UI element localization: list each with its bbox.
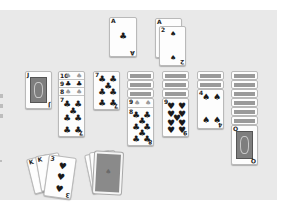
face-down-card [162, 89, 189, 98]
face-down-card [231, 107, 258, 116]
club-icon: ♣ [63, 126, 71, 135]
club-icon: ♣ [132, 135, 140, 144]
spade-icon: ♠ [76, 73, 82, 80]
foundation-pile-2[interactable]: 2 ♠ ♠ 2 [159, 26, 186, 66]
face-down-card [231, 89, 258, 98]
card-rank: 7 [114, 103, 118, 109]
face-down-card [162, 71, 189, 80]
club-icon: ♣ [74, 114, 82, 123]
club-icon: ♣ [119, 32, 127, 41]
card-rank: 8 [60, 89, 64, 95]
spade-icon: ♠ [170, 31, 176, 38]
card-rank: 3 [65, 192, 70, 199]
card-rank: Q [251, 158, 256, 164]
card-rank: 2 [180, 59, 184, 65]
spade-icon: ♠ [202, 116, 210, 125]
face-down-card [231, 116, 258, 125]
stock-pile[interactable]: ♠ [93, 151, 123, 194]
card-rank: J [48, 102, 50, 108]
face-down-card [197, 71, 224, 80]
spade-icon: ♠ [134, 100, 140, 107]
club-icon: ♣ [63, 114, 71, 123]
edge-marker [0, 104, 3, 108]
card-rank: K [37, 156, 43, 163]
card-rank: 9 [129, 99, 133, 105]
tableau-column-7-card[interactable]: Q Q [231, 125, 258, 165]
heart-icon: ♥ [58, 162, 67, 172]
card-rank: J [27, 72, 29, 78]
deck-emblem-icon: ♠ [105, 169, 112, 176]
card-rank: 9 [183, 130, 187, 136]
tableau-column-3-card[interactable]: 7 ♣ ♣ ♣ ♣ ♣ ♣ ♣ 7 [93, 71, 120, 110]
heart-icon: ♥ [55, 185, 64, 195]
club-icon: ♣ [76, 81, 82, 88]
spade-icon: ♠ [76, 89, 82, 96]
face-down-card [127, 71, 154, 80]
spade-icon: ♠ [65, 73, 71, 80]
heart-icon: ♥ [167, 126, 175, 135]
edge-marker [0, 160, 2, 162]
spade-icon: ♠ [65, 89, 71, 96]
edge-marker [0, 94, 3, 98]
card-rank: K [28, 159, 34, 166]
card-rank: 4 [218, 122, 222, 128]
face-down-card [162, 80, 189, 89]
card-rank: 7 [79, 130, 83, 136]
club-icon: ♣ [109, 88, 117, 97]
card-rank: A [111, 18, 116, 24]
club-icon: ♣ [98, 99, 106, 108]
tableau-column-6-card[interactable]: 4 ♠ ♠ ♠ ♠ 4 [197, 89, 224, 129]
tableau-column-4-card[interactable]: 9 ♠ ♠ 8 ♣ ♣ ♣ ♣ ♣ ♣ ♣ ♣ 8 [127, 98, 154, 146]
club-icon: ♣ [65, 81, 71, 88]
queen-face-art [236, 131, 253, 159]
heart-icon: ♥ [56, 173, 65, 183]
card-rank: A [130, 50, 135, 56]
face-down-card [127, 89, 154, 98]
face-down-card [231, 98, 258, 107]
face-down-card [231, 71, 258, 80]
spade-icon: ♠ [202, 93, 210, 102]
face-down-card [197, 80, 224, 89]
tableau-column-5-card[interactable]: 9 ♥ ♥ ♥ ♥ ♥ ♥ ♥ ♥ ♥ 9 [162, 98, 189, 137]
tableau-column-1-card[interactable]: J J [25, 71, 52, 109]
spade-icon: ♠ [145, 100, 151, 107]
jack-face-art [30, 77, 47, 103]
edge-marker [0, 114, 3, 118]
card-rank: A [157, 19, 162, 25]
spade-icon: ♠ [213, 93, 221, 102]
face-down-card [127, 80, 154, 89]
face-down-card [231, 80, 258, 89]
card-rank: 8 [148, 139, 152, 145]
waste-top-card[interactable]: 3 ♥ ♥ ♥ 3 [43, 154, 77, 199]
foundation-pile-1[interactable]: A ♣ A [109, 17, 137, 57]
card-rank: 9 [60, 81, 64, 87]
card-rank: 2 [161, 27, 165, 33]
club-icon: ♣ [98, 88, 106, 97]
spade-icon: ♠ [170, 55, 176, 62]
card-rank: 3 [50, 156, 55, 163]
tableau-column-2-stack[interactable]: 10 ♠ ♠ 9 ♣ ♣ 8 ♠ ♠ 7 ♣ ♣ ♣ ♣ ♣ ♣ ♣ 7 [58, 71, 85, 137]
